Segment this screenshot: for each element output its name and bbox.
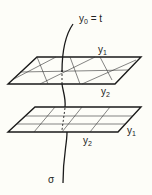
sigma-curve-upper xyxy=(62,24,73,72)
bottom-plane xyxy=(8,107,141,132)
label-top-y2: y2 xyxy=(101,86,110,98)
label-sigma: σ xyxy=(48,174,55,185)
top-plane xyxy=(8,57,141,84)
diagram-canvas: y0 = t y1 y2 y1 y2 σ xyxy=(0,0,152,195)
label-bottom-y2: y2 xyxy=(83,135,92,147)
label-y0-equals-t: y0 = t xyxy=(79,13,102,25)
sigma-curve-middle xyxy=(62,84,65,107)
label-bottom-y1: y1 xyxy=(127,125,136,137)
label-top-y1: y1 xyxy=(98,44,107,56)
sigma-curve-lower xyxy=(63,132,67,183)
